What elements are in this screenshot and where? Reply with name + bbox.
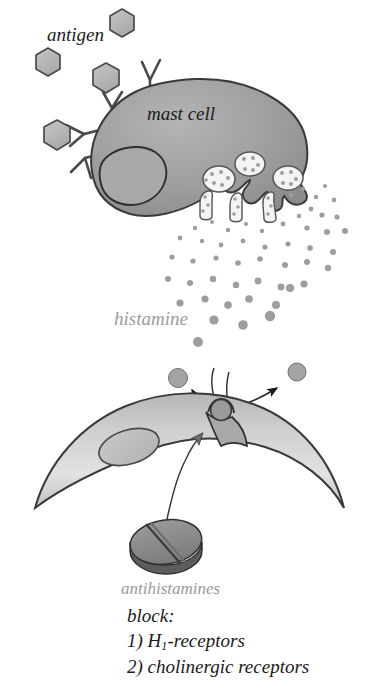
granule	[235, 152, 265, 176]
label-histamine: histamine	[114, 309, 188, 328]
label-block: block:	[127, 606, 174, 625]
label-h1-receptors: 1) H1-receptors	[127, 631, 245, 653]
label-mast-cell: mast cell	[147, 104, 215, 123]
h1-receptor-suffix: -receptors	[167, 630, 244, 651]
granule	[273, 166, 303, 190]
granule-fusing	[263, 192, 276, 222]
antihistamine-block-arrow	[167, 434, 202, 519]
granule-fusing	[200, 191, 212, 220]
mast-cell-nucleus	[100, 147, 167, 205]
antigen-hexagon-icon	[93, 63, 119, 93]
histamine-molecule	[288, 363, 306, 381]
mast-cell-diagram: antigen mast cell histamine antihistamin…	[0, 0, 367, 699]
antihistamine-tablet	[127, 515, 204, 574]
histamine-molecule	[169, 369, 188, 388]
h1-receptor-prefix: 1) H	[127, 630, 161, 651]
receptor-bound-histamine	[211, 400, 232, 421]
antigen-hexagon-icon	[44, 120, 70, 150]
antigen-hexagon-icon	[110, 9, 134, 37]
label-antigen: antigen	[47, 25, 104, 44]
label-antihistamines: antihistamines	[121, 580, 220, 597]
free-histamine-group	[169, 363, 307, 388]
histamine-dot-field	[165, 184, 348, 347]
granule-fusing	[230, 193, 242, 222]
antigen-hexagon-icon	[36, 48, 60, 76]
label-cholinergic-receptors: 2) cholinergic receptors	[127, 657, 309, 676]
granule	[203, 166, 235, 192]
